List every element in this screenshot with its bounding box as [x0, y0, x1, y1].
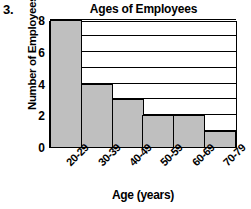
- x-tick-label: 40-49: [127, 160, 135, 168]
- x-tick-label: 60-69: [190, 160, 198, 168]
- x-axis-tick-labels: 20-2930-3940-4950-5960-6970-79: [49, 148, 237, 188]
- plot-area: [49, 21, 237, 148]
- bar: [112, 99, 144, 147]
- y-tick-label: 0: [31, 142, 45, 154]
- x-tick-label: 20-29: [64, 160, 72, 168]
- y-tick-label: 6: [31, 47, 45, 59]
- bar: [50, 20, 82, 147]
- bar: [81, 84, 113, 148]
- x-tick-label: 50-59: [158, 160, 166, 168]
- bar-series: [50, 22, 236, 147]
- x-tick-label: 30-39: [96, 160, 104, 168]
- chart-title: Ages of Employees: [49, 2, 238, 16]
- x-axis-title: Age (years): [49, 189, 237, 201]
- x-tick-label: 70-79: [221, 160, 229, 168]
- bar: [142, 115, 174, 147]
- problem-number: 3.: [3, 3, 13, 16]
- y-tick-label: 4: [31, 79, 45, 91]
- y-tick-label: 2: [31, 110, 45, 122]
- y-tick-label: 8: [31, 15, 45, 27]
- y-axis-tick-labels: 02468: [29, 0, 45, 209]
